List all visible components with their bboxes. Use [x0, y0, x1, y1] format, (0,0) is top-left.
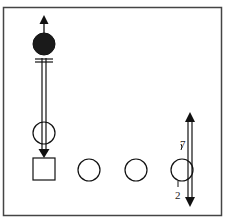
open-player-mid	[33, 122, 55, 144]
play-diagram	[0, 0, 228, 220]
filled-player	[33, 15, 55, 55]
arrow-up-icon	[185, 112, 195, 122]
arrow-up-icon	[40, 15, 49, 24]
open-player-2	[125, 159, 147, 181]
label-2: 2	[175, 190, 181, 201]
arrow-down-icon	[39, 149, 50, 158]
open-player-1	[78, 159, 100, 181]
arrow-down-icon	[185, 197, 195, 207]
square-player	[33, 158, 55, 180]
label-7: 7	[180, 139, 186, 150]
open-player-3	[171, 159, 193, 181]
screen-marks	[35, 59, 53, 62]
